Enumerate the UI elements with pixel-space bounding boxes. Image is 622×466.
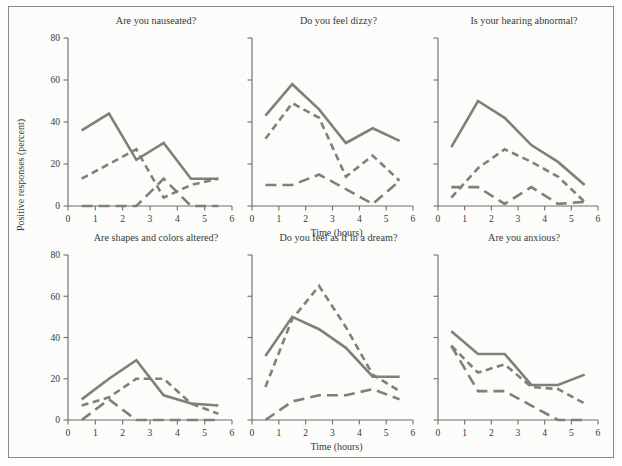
panel-2: 0123456Is your hearing abnormal? [434, 15, 601, 224]
x-tick-label: 1 [276, 213, 281, 224]
x-tick-label: 0 [436, 427, 441, 438]
x-tick-label: 6 [411, 427, 416, 438]
x-axis-label-bottom: Time (hours) [310, 441, 362, 453]
series-high_dose [82, 360, 219, 405]
series-placebo [82, 399, 219, 420]
x-tick-label: 3 [148, 213, 153, 224]
x-tick-label: 6 [230, 427, 235, 438]
x-tick-label: 1 [93, 213, 98, 224]
x-tick-label: 2 [303, 213, 308, 224]
panel-5: 0123456Are you anxious? [434, 232, 601, 438]
x-tick-label: 6 [411, 213, 416, 224]
x-tick-label: 5 [202, 213, 207, 224]
panel-axes-spines [68, 255, 232, 420]
panel-title: Are shapes and colors altered? [94, 232, 219, 243]
x-tick-label: 4 [357, 213, 362, 224]
series-placebo [265, 175, 399, 204]
y-axis-label: Positive responses (percent) [15, 119, 27, 231]
x-tick-label: 2 [303, 427, 308, 438]
y-tick-label: 80 [50, 249, 60, 260]
y-tick-label: 0 [55, 414, 60, 425]
panel-title: Do you feel dizzy? [300, 15, 378, 26]
x-tick-label: 0 [436, 213, 441, 224]
y-tick-label: 40 [50, 116, 60, 127]
y-tick-label: 20 [50, 158, 60, 169]
x-tick-label: 3 [330, 427, 335, 438]
x-tick-label: 3 [516, 213, 521, 224]
panel-3: 0204060800123456Are shapes and colors al… [50, 232, 234, 438]
series-medium_dose [451, 149, 584, 202]
x-axis-label-top: Time (hours) [310, 227, 362, 239]
y-tick-label: 80 [50, 32, 60, 43]
series-high_dose [265, 84, 399, 143]
x-tick-label: 5 [384, 213, 389, 224]
x-tick-label: 4 [175, 427, 180, 438]
panel-axes-spines [438, 38, 598, 206]
x-tick-label: 0 [250, 427, 255, 438]
y-tick-label: 60 [50, 74, 60, 85]
panel-title: Are you nauseated? [116, 15, 197, 26]
x-tick-label: 2 [120, 427, 125, 438]
x-tick-label: 0 [66, 213, 71, 224]
panel-0: 0204060800123456Are you nauseated? [50, 15, 234, 224]
x-tick-label: 3 [148, 427, 153, 438]
panel-title: Is your hearing abnormal? [470, 15, 578, 26]
x-tick-label: 2 [120, 213, 125, 224]
series-medium_dose [451, 346, 584, 404]
multi-panel-line-chart: 0204060800123456Are you nauseated?012345… [0, 0, 622, 466]
series-medium_dose [265, 103, 399, 181]
x-tick-label: 5 [202, 427, 207, 438]
panel-1: 0123456Do you feel dizzy? [248, 15, 416, 224]
x-tick-label: 3 [516, 427, 521, 438]
series-placebo [451, 187, 584, 204]
x-tick-label: 5 [384, 427, 389, 438]
x-tick-label: 6 [596, 213, 601, 224]
panel-4: 0123456Do you feel as if in a dream? [248, 232, 416, 438]
x-tick-label: 6 [230, 213, 235, 224]
x-tick-label: 4 [175, 213, 180, 224]
x-tick-label: 0 [66, 427, 71, 438]
series-high_dose [82, 114, 219, 179]
x-tick-label: 2 [489, 427, 494, 438]
y-tick-label: 60 [50, 291, 60, 302]
x-tick-label: 1 [276, 427, 281, 438]
y-tick-label: 0 [55, 200, 60, 211]
x-tick-label: 4 [542, 427, 547, 438]
x-tick-label: 0 [250, 213, 255, 224]
series-placebo [265, 389, 399, 420]
x-tick-label: 4 [357, 427, 362, 438]
x-tick-label: 5 [569, 213, 574, 224]
x-tick-label: 2 [489, 213, 494, 224]
x-tick-label: 3 [330, 213, 335, 224]
figure-canvas: 0204060800123456Are you nauseated?012345… [0, 0, 622, 466]
series-high_dose [451, 101, 584, 185]
x-tick-label: 6 [596, 427, 601, 438]
y-tick-label: 40 [50, 332, 60, 343]
x-tick-label: 1 [462, 213, 467, 224]
panel-title: Are you anxious? [488, 232, 560, 243]
panel-axes-spines [438, 255, 598, 420]
x-tick-label: 1 [93, 427, 98, 438]
series-high_dose [265, 317, 399, 377]
x-tick-label: 4 [542, 213, 547, 224]
x-tick-label: 1 [462, 427, 467, 438]
x-tick-label: 5 [569, 427, 574, 438]
series-medium_dose [82, 149, 219, 197]
y-tick-label: 20 [50, 373, 60, 384]
